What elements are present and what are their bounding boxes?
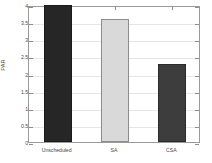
y-tick-mark bbox=[29, 24, 33, 25]
y-tick-label: 3.5 bbox=[21, 20, 28, 26]
y-tick-mark bbox=[195, 76, 199, 77]
y-tick-mark bbox=[29, 93, 33, 94]
y-tick-label: 0.5 bbox=[21, 123, 28, 129]
y-tick-mark bbox=[195, 58, 199, 59]
x-tick-label: SA bbox=[111, 147, 118, 153]
y-tick-label: 2.5 bbox=[21, 54, 28, 60]
y-axis-label: PAR bbox=[0, 59, 6, 71]
x-tick-label: Unscheduled bbox=[42, 147, 72, 153]
x-tick-mark bbox=[115, 7, 116, 10]
y-tick-mark bbox=[29, 144, 33, 145]
bar bbox=[44, 5, 72, 142]
bar bbox=[158, 64, 186, 142]
y-tick-mark bbox=[29, 127, 33, 128]
plot-area bbox=[28, 6, 200, 143]
y-tick-mark bbox=[29, 7, 33, 8]
y-tick-label: 1.5 bbox=[21, 89, 28, 95]
x-tick-label: CSA bbox=[166, 147, 177, 153]
y-tick-mark bbox=[29, 110, 33, 111]
y-tick-mark bbox=[195, 93, 199, 94]
y-tick-mark bbox=[29, 41, 33, 42]
x-tick-mark bbox=[172, 7, 173, 10]
y-tick-mark bbox=[195, 7, 199, 8]
figure-bar-chart: PAR 00.511.522.533.54 UnscheduledSACSA bbox=[0, 0, 212, 163]
bar bbox=[101, 19, 129, 142]
y-tick-mark bbox=[195, 144, 199, 145]
y-tick-mark bbox=[29, 58, 33, 59]
y-tick-mark bbox=[195, 24, 199, 25]
y-tick-mark bbox=[195, 110, 199, 111]
y-tick-mark bbox=[29, 76, 33, 77]
y-tick-mark bbox=[195, 41, 199, 42]
y-tick-mark bbox=[195, 127, 199, 128]
